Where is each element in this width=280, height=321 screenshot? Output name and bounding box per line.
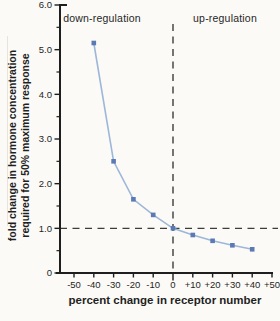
data-point-marker (111, 159, 116, 164)
data-point-marker (230, 243, 235, 248)
x-tick-label: +50 (264, 279, 280, 290)
reference-lines-group (60, 24, 278, 273)
x-tick-label: -50 (67, 279, 81, 290)
y-tick-label: 4.0 (39, 89, 52, 100)
x-tick-label: +30 (224, 279, 240, 290)
receptor-regulation-figure: 01.02.03.04.05.06.0-50-40-30-20-100+10+2… (0, 0, 280, 321)
y-tick-label: 1.0 (39, 223, 52, 234)
x-tick-label: -40 (87, 279, 101, 290)
x-tick-label: 0 (170, 279, 175, 290)
data-point-marker (92, 41, 97, 46)
x-tick-label: +10 (185, 279, 201, 290)
data-point-marker (151, 213, 156, 218)
x-axis-title: percent change in receptor number (58, 294, 272, 306)
chart-svg: 01.02.03.04.05.06.0-50-40-30-20-100+10+2… (0, 0, 280, 321)
y-tick-label: 2.0 (39, 178, 52, 189)
data-point-marker (171, 226, 176, 231)
y-axis-title-line1: fold change in hormone concentration (6, 6, 19, 286)
axes-group (55, 4, 274, 281)
data-series-group (92, 41, 255, 252)
y-tick-label: 5.0 (39, 44, 52, 55)
x-tick-label: +20 (205, 279, 221, 290)
y-axis-title: fold change in hormone concentration req… (6, 6, 31, 286)
y-tick-label: 3.0 (39, 133, 52, 144)
data-point-marker (210, 239, 215, 244)
down-regulation-label: down-regulation (52, 12, 152, 24)
x-tick-label: -10 (146, 279, 160, 290)
up-regulation-label: up-regulation (180, 12, 270, 24)
y-tick-label: 0 (47, 267, 52, 278)
x-tick-label: -30 (107, 279, 121, 290)
y-axis-title-line2: required for 50% maximum response (18, 6, 31, 286)
tick-labels-group: 01.02.03.04.05.06.0-50-40-30-20-100+10+2… (39, 0, 280, 290)
data-point-marker (191, 233, 196, 238)
x-tick-label: +40 (244, 279, 260, 290)
data-point-marker (250, 247, 255, 252)
y-tick-label: 6.0 (39, 0, 52, 10)
data-point-marker (131, 197, 136, 202)
x-tick-label: -20 (127, 279, 141, 290)
